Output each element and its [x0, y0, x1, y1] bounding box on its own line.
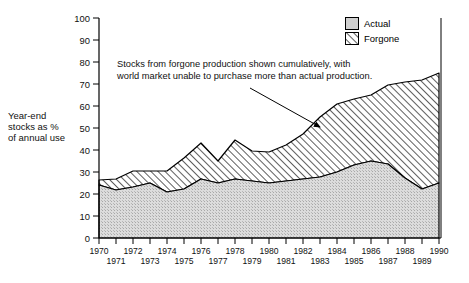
y-axis-label-line2: stocks as %: [8, 121, 88, 132]
legend-item-forgone: Forgone: [345, 31, 399, 46]
x-tick-1970: 1970: [89, 246, 108, 256]
y-tick-10: 10: [80, 211, 90, 222]
legend-item-actual: Actual: [345, 16, 399, 31]
y-tick-70: 70: [80, 79, 90, 90]
hatch-swatch-icon: [346, 33, 358, 44]
x-tick-1978: 1978: [225, 246, 244, 256]
legend-swatch-forgone-icon: [345, 32, 359, 45]
y-axis-label-line3: of annual use: [8, 132, 88, 143]
annotation-line-1: Stocks from forgone production shown cum…: [117, 59, 372, 71]
y-tick-80: 80: [80, 57, 90, 68]
chart-legend: Actual Forgone: [345, 16, 399, 46]
chart-annotation: Stocks from forgone production shown cum…: [117, 59, 372, 82]
x-tick-1977: 1977: [208, 256, 227, 266]
x-axis-ticks: [99, 238, 439, 244]
x-tick-1981: 1981: [276, 256, 295, 266]
legend-label-actual: Actual: [364, 16, 390, 31]
x-tick-1984: 1984: [327, 246, 346, 256]
x-tick-1980: 1980: [259, 246, 278, 256]
x-tick-1976: 1976: [191, 246, 210, 256]
y-tick-40: 40: [80, 145, 90, 156]
annotation-arrow: [250, 88, 320, 127]
x-tick-1972: 1972: [123, 246, 142, 256]
x-tick-1973: 1973: [140, 256, 159, 266]
x-tick-1989: 1989: [412, 256, 431, 266]
x-tick-1988: 1988: [395, 246, 414, 256]
x-tick-1979: 1979: [242, 256, 261, 266]
x-tick-1975: 1975: [174, 256, 193, 266]
chart-figure: 100 90 80 70 60 50 40 30 20 10 0 1970 19…: [0, 0, 469, 283]
y-axis-ticks: [93, 18, 99, 238]
x-tick-1983: 1983: [310, 256, 329, 266]
x-tick-1971: 1971: [106, 256, 125, 266]
legend-swatch-actual-icon: [345, 17, 359, 30]
x-tick-1985: 1985: [344, 256, 363, 266]
y-tick-0: 0: [85, 233, 90, 244]
y-tick-20: 20: [80, 189, 90, 200]
x-tick-1982: 1982: [293, 246, 312, 256]
x-tick-1986: 1986: [361, 246, 380, 256]
y-tick-90: 90: [80, 35, 90, 46]
y-axis-label: Year-end stocks as % of annual use: [8, 110, 88, 143]
x-tick-1990: 1990: [429, 246, 448, 256]
x-tick-1987: 1987: [378, 256, 397, 266]
y-tick-100: 100: [74, 13, 90, 24]
legend-label-forgone: Forgone: [364, 31, 399, 46]
annotation-line-2: world market unable to purchase more tha…: [117, 71, 372, 83]
y-axis-label-line1: Year-end: [8, 110, 88, 121]
y-tick-30: 30: [80, 167, 90, 178]
x-tick-1974: 1974: [157, 246, 176, 256]
